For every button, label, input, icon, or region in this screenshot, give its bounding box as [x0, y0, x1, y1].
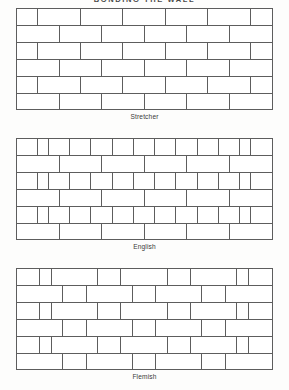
brick [237, 303, 249, 319]
brick [145, 190, 188, 206]
brick [38, 207, 49, 223]
brick [17, 207, 38, 223]
brick [176, 207, 197, 223]
brick-course [17, 303, 272, 320]
brick [52, 303, 98, 319]
brick [133, 286, 156, 302]
brick [17, 26, 60, 42]
brick [121, 337, 167, 353]
brick [17, 354, 63, 370]
figure-caption-flemish: Flemish [0, 373, 289, 380]
brick [134, 139, 155, 155]
brick-course [17, 354, 272, 370]
brick-course [17, 26, 272, 43]
brick [87, 354, 133, 370]
brick-course [17, 77, 272, 94]
brick [156, 354, 202, 370]
figure-caption-stretcher: Stretcher [0, 113, 289, 120]
brick [202, 320, 225, 336]
brick [240, 139, 251, 155]
brick [230, 156, 273, 172]
brick [38, 77, 81, 93]
brick [230, 60, 273, 76]
brick [60, 156, 103, 172]
brick [38, 173, 49, 189]
brick [155, 173, 176, 189]
brick [249, 269, 272, 285]
brick-course [17, 173, 272, 190]
brick [237, 337, 249, 353]
brick [102, 224, 145, 240]
brick [17, 173, 38, 189]
brick [145, 94, 188, 110]
brick [38, 139, 49, 155]
brick [166, 77, 209, 93]
brick [52, 269, 98, 285]
brick [113, 139, 134, 155]
brick [133, 320, 156, 336]
brick [230, 190, 273, 206]
brick [187, 224, 230, 240]
brick [249, 337, 272, 353]
brick [191, 337, 237, 353]
brick [60, 26, 103, 42]
brick [191, 269, 237, 285]
brick-course [17, 286, 272, 303]
brick [52, 337, 98, 353]
brick-course [17, 320, 272, 337]
brick [168, 269, 191, 285]
brick [17, 94, 60, 110]
brick [121, 269, 167, 285]
brick-course [17, 60, 272, 77]
brick [49, 173, 70, 189]
brick [134, 173, 155, 189]
brick [251, 139, 272, 155]
brick [17, 224, 60, 240]
brick [145, 156, 188, 172]
figure-caption-english: English [0, 243, 289, 250]
brick [40, 337, 52, 353]
brick [49, 139, 70, 155]
figure-english-bond: English [0, 138, 289, 250]
brick [81, 43, 124, 59]
brick-course [17, 139, 272, 156]
brick [102, 60, 145, 76]
brick [251, 207, 272, 223]
brick [230, 26, 273, 42]
brick [226, 320, 272, 336]
brick [187, 26, 230, 42]
brick [113, 173, 134, 189]
brick [187, 190, 230, 206]
brick [49, 207, 70, 223]
brick [237, 269, 249, 285]
brick [198, 173, 219, 189]
brick-course [17, 43, 272, 60]
brick [156, 320, 202, 336]
brick [60, 94, 103, 110]
brick-course [17, 224, 272, 240]
brick [202, 354, 225, 370]
brick [60, 190, 103, 206]
brick [134, 207, 155, 223]
brick [202, 286, 225, 302]
brick [87, 286, 133, 302]
brick [187, 94, 230, 110]
brick [123, 9, 166, 25]
brick [38, 43, 81, 59]
brick-course [17, 9, 272, 26]
brick-course [17, 190, 272, 207]
brick [17, 77, 38, 93]
brick [226, 354, 272, 370]
brick [63, 286, 86, 302]
brick [91, 173, 112, 189]
brick [113, 207, 134, 223]
page-title: BONDING THE WALL [0, 0, 289, 4]
brick [91, 139, 112, 155]
figure-stretcher-bond: Stretcher [0, 8, 289, 120]
brick [251, 43, 272, 59]
brick [81, 77, 124, 93]
brick [98, 303, 121, 319]
brick [17, 9, 38, 25]
brick-wall-stretcher [16, 8, 273, 110]
brick [91, 207, 112, 223]
